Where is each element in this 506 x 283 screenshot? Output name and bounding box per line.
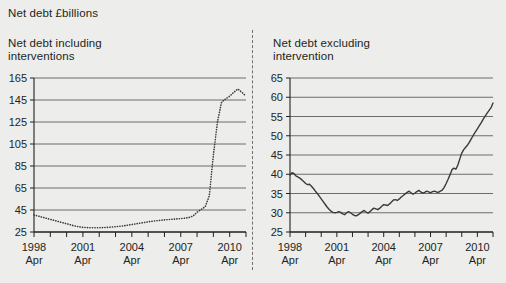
data-series-line <box>290 103 493 216</box>
x-tick-label-month-2010: Apr <box>469 254 486 266</box>
y-tick-label-105: 105 <box>9 138 27 150</box>
x-tick-label-month-2007: Apr <box>422 254 439 266</box>
y-tick-label-125: 125 <box>9 116 27 128</box>
right-chart-svg: 2530354045505560651998Apr2001Apr2004Apr2… <box>253 60 506 283</box>
y-tick-label-45: 45 <box>15 204 27 216</box>
y-tick-label-60: 60 <box>271 91 283 103</box>
y-tick-label-40: 40 <box>271 168 283 180</box>
right-chart-panel: 2530354045505560651998Apr2001Apr2004Apr2… <box>253 60 506 283</box>
y-tick-label-35: 35 <box>271 188 283 200</box>
y-tick-label-45: 45 <box>271 149 283 161</box>
right-chart-title: Net debt excluding intervention <box>273 37 370 62</box>
x-tick-label-month-1998: Apr <box>281 254 298 266</box>
x-tick-label-month-2004: Apr <box>375 254 392 266</box>
y-tick-label-65: 65 <box>15 182 27 194</box>
x-tick-label-year-2001: 2001 <box>71 241 95 253</box>
y-tick-label-25: 25 <box>271 226 283 238</box>
x-tick-label-year-1998: 1998 <box>22 241 46 253</box>
y-tick-label-30: 30 <box>271 207 283 219</box>
x-tick-label-year-2004: 2004 <box>371 241 395 253</box>
x-tick-label-month-2007: Apr <box>172 254 189 266</box>
x-tick-label-year-2004: 2004 <box>120 241 144 253</box>
y-tick-label-85: 85 <box>15 160 27 172</box>
x-tick-label-year-2007: 2007 <box>418 241 442 253</box>
y-tick-label-50: 50 <box>271 130 283 142</box>
x-tick-label-year-2007: 2007 <box>169 241 193 253</box>
figure-root: Net debt £billions Net debt including in… <box>0 0 506 283</box>
left-chart-panel: 254565851051251451651998Apr2001Apr2004Ap… <box>0 60 253 283</box>
y-tick-label-145: 145 <box>9 94 27 106</box>
page-title: Net debt £billions <box>8 7 98 20</box>
x-tick-label-year-1998: 1998 <box>278 241 302 253</box>
x-tick-label-year-2001: 2001 <box>325 241 349 253</box>
y-tick-label-25: 25 <box>15 226 27 238</box>
y-tick-label-65: 65 <box>271 72 283 84</box>
x-tick-label-year-2010: 2010 <box>465 241 489 253</box>
y-tick-label-55: 55 <box>271 111 283 123</box>
x-tick-label-month-2004: Apr <box>123 254 140 266</box>
y-tick-label-165: 165 <box>9 72 27 84</box>
x-tick-label-month-2001: Apr <box>74 254 91 266</box>
left-chart-svg: 254565851051251451651998Apr2001Apr2004Ap… <box>0 60 253 283</box>
x-tick-label-month-2010: Apr <box>221 254 238 266</box>
x-tick-label-month-2001: Apr <box>328 254 345 266</box>
x-tick-label-year-2010: 2010 <box>217 241 241 253</box>
data-series-line <box>34 89 246 228</box>
left-chart-title: Net debt including interventions <box>8 37 102 62</box>
x-tick-label-month-1998: Apr <box>25 254 42 266</box>
